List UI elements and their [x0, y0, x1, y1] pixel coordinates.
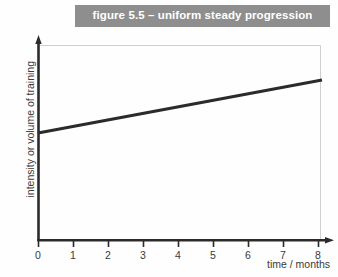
- x-tick-label-0: 0: [30, 250, 46, 261]
- data-line-uniform-steady-progression: [38, 80, 322, 133]
- x-tick-label-5: 5: [205, 250, 221, 261]
- plot-frame: [39, 46, 321, 241]
- figure-container: figure 5.5 – uniform steady progression: [0, 0, 338, 277]
- x-axis-title: time / months: [267, 259, 330, 270]
- x-tick-label-2: 2: [100, 250, 116, 261]
- x-tick-label-3: 3: [135, 250, 151, 261]
- chart-canvas: [0, 0, 338, 277]
- x-tick-label-1: 1: [65, 250, 81, 261]
- y-axis-title: intensity or volume of training: [25, 49, 36, 209]
- x-axis: [37, 237, 334, 243]
- x-tick-label-4: 4: [170, 250, 186, 261]
- y-axis: [35, 35, 41, 241]
- x-tick-label-6: 6: [240, 250, 256, 261]
